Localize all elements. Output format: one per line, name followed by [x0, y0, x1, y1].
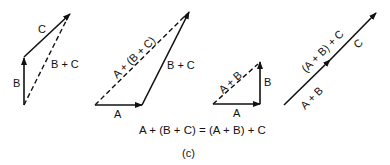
label-b-plus-c: B + C [167, 59, 195, 71]
vector-addition-diagram: C B B + C A B + C A + (B + C) A B A + B … [0, 0, 390, 165]
label-b: B [13, 77, 20, 89]
label-a-plus-b: A + B [216, 69, 244, 96]
label-c: C [351, 36, 365, 50]
figure-caption: (c) [182, 147, 195, 159]
label-a: A [114, 108, 122, 120]
panel-4: A + B C (A + B) + C [284, 13, 376, 111]
vector-c [24, 14, 70, 57]
label-a: A [233, 107, 241, 119]
label-b-plus-c: B + C [51, 58, 79, 70]
label-a-plus-bc: A + (B + C) [110, 34, 157, 80]
panel-2: A B + C A + (B + C) [95, 12, 195, 120]
label-c: C [38, 23, 46, 35]
panel-3: A B A + B [213, 62, 271, 119]
panel-1: C B B + C [13, 14, 79, 105]
equation: A + (B + C) = (A + B) + C [139, 124, 266, 136]
label-b: B [264, 76, 271, 88]
